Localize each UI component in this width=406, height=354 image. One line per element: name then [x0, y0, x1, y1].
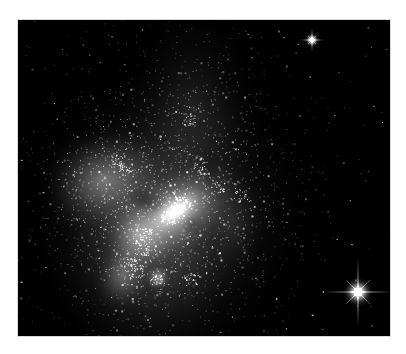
galaxy-canvas	[18, 20, 390, 336]
astronomical-image: Grayscale telescope image of an irregula…	[18, 20, 390, 336]
